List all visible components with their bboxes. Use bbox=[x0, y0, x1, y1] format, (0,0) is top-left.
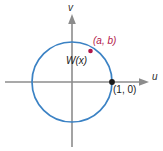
v-axis-arrowhead bbox=[68, 14, 76, 24]
point-one-zero-label: (1, 0) bbox=[113, 85, 136, 95]
u-axis-label: u bbox=[152, 72, 158, 82]
wrapping-function-label: W(x) bbox=[66, 56, 87, 66]
point-ab-dot bbox=[88, 49, 93, 54]
u-axis-arrowhead bbox=[139, 78, 149, 86]
unit-circle-figure: v u (a, b) W(x) (1, 0) bbox=[0, 0, 163, 151]
v-axis-label: v bbox=[68, 3, 73, 13]
point-ab-label: (a, b) bbox=[93, 36, 116, 46]
figure-canvas bbox=[0, 0, 163, 151]
